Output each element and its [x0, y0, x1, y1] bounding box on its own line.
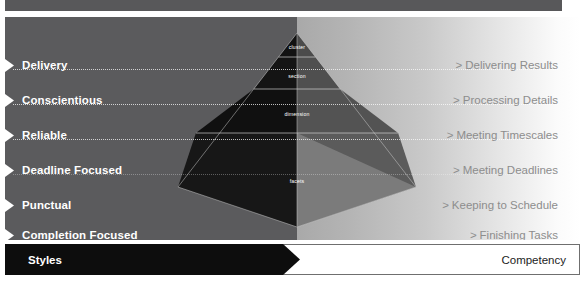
- chevron-right-icon: >: [447, 129, 454, 141]
- competency-label: Keeping to Schedule: [452, 199, 558, 211]
- competency-label: Finishing Tasks: [480, 229, 558, 240]
- competency-label: Processing Details: [463, 94, 558, 106]
- competency-item-delivering-results[interactable]: > Delivering Results: [456, 55, 558, 75]
- styles-axis-arrow: [5, 244, 580, 275]
- top-header-band: [5, 0, 562, 11]
- chevron-right-icon: >: [442, 199, 449, 211]
- competency-item-meeting-timescales[interactable]: > Meeting Timescales: [447, 125, 558, 145]
- axis-label-competency: Competency: [501, 244, 566, 275]
- competency-label: Delivering Results: [465, 59, 558, 71]
- competency-label: Meeting Timescales: [456, 129, 558, 141]
- competency-item-meeting-deadlines[interactable]: > Meeting Deadlines: [453, 160, 558, 180]
- competency-list: > Delivering Results > Processing Detail…: [5, 17, 580, 240]
- competency-item-finishing-tasks[interactable]: > Finishing Tasks: [470, 225, 558, 240]
- competency-item-processing-details[interactable]: > Processing Details: [453, 90, 558, 110]
- competency-label: Meeting Deadlines: [463, 164, 558, 176]
- competency-pyramid-figure: cluster section dimension facets Deliver…: [5, 17, 580, 240]
- styles-competency-axis: Styles Competency: [5, 244, 580, 275]
- chevron-right-icon: >: [470, 229, 477, 240]
- competency-item-keeping-to-schedule[interactable]: > Keeping to Schedule: [442, 195, 558, 215]
- chevron-right-icon: >: [456, 59, 463, 71]
- chevron-right-icon: >: [453, 94, 460, 106]
- axis-label-styles: Styles: [28, 244, 62, 275]
- chevron-right-icon: >: [453, 164, 460, 176]
- figure-stage: cluster section dimension facets Deliver…: [0, 0, 585, 283]
